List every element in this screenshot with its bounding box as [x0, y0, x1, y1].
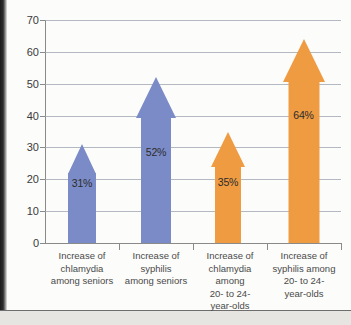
- arrowhead-icon: [211, 132, 245, 167]
- category-label-syphilis-seniors: Increase of syphilis among seniors: [119, 250, 193, 288]
- bar-arrow-syphilis-seniors[interactable]: 52%: [141, 77, 171, 243]
- category-line: Increase of: [119, 250, 193, 263]
- category-labels: Increase of chlamydia among seniors Incr…: [45, 250, 341, 308]
- category-line: among seniors: [45, 275, 119, 288]
- category-line: year-olds: [193, 300, 267, 313]
- category-separator-2: [193, 243, 194, 250]
- category-line: syphilis: [119, 263, 193, 276]
- category-line: year-olds: [267, 288, 341, 301]
- y-label-0: 0: [15, 238, 39, 249]
- y-label-50: 50: [15, 79, 39, 90]
- bar-arrow-syphilis-young[interactable]: 64%: [288, 39, 319, 243]
- arrowhead-icon: [136, 77, 176, 118]
- category-line: chlamydia among: [193, 263, 267, 288]
- scan-edge-artifact: [0, 0, 7, 310]
- bar-value-label: 31%: [72, 177, 92, 189]
- category-line: among seniors: [119, 275, 193, 288]
- category-label-syphilis-young: Increase of syphilis among 20- to 24- ye…: [267, 250, 341, 300]
- chart-page: 70 60 50 40 30 20 10 0 31% 52%: [0, 0, 351, 325]
- y-label-10: 10: [15, 206, 39, 217]
- category-separator-3: [267, 243, 268, 250]
- category-label-chlamydia-seniors: Increase of chlamydia among seniors: [45, 250, 119, 288]
- bar-arrow-chlamydia-seniors[interactable]: 31%: [68, 144, 96, 243]
- category-line: Increase of: [193, 250, 267, 263]
- category-separator-4: [341, 243, 342, 250]
- y-label-30: 30: [15, 142, 39, 153]
- category-line: 20- to 24-: [193, 288, 267, 301]
- arrowhead-icon: [283, 39, 325, 82]
- category-line: 20- to 24-: [267, 275, 341, 288]
- bar-shaft: [141, 118, 171, 243]
- category-line: chlamydia: [45, 263, 119, 276]
- bar-shaft: [288, 82, 319, 243]
- bar-value-label: 35%: [218, 176, 238, 188]
- y-label-70: 70: [15, 15, 39, 26]
- category-separator-1: [119, 243, 120, 250]
- category-line: Increase of: [45, 250, 119, 263]
- category-line: syphilis among: [267, 263, 341, 276]
- arrowhead-icon: [68, 144, 96, 174]
- y-label-60: 60: [15, 47, 39, 58]
- bar-arrow-chlamydia-young[interactable]: 35%: [215, 132, 241, 244]
- bar-value-label: 52%: [146, 146, 166, 158]
- category-line: Increase of: [267, 250, 341, 263]
- plot-area: 70 60 50 40 30 20 10 0 31% 52%: [45, 20, 341, 243]
- y-label-20: 20: [15, 174, 39, 185]
- bar-value-label: 64%: [293, 109, 313, 121]
- y-label-40: 40: [15, 111, 39, 122]
- scan-bottom-artifact: [0, 310, 351, 325]
- category-label-chlamydia-young: Increase of chlamydia among 20- to 24- y…: [193, 250, 267, 313]
